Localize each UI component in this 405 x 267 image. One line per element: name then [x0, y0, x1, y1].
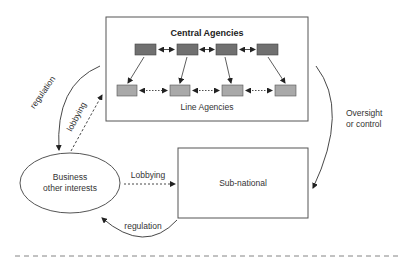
regulation-label-top: regulation — [28, 74, 58, 111]
line-agencies-label: Line Agencies — [181, 102, 234, 112]
central-agency-node — [257, 44, 278, 55]
line-agency-node — [170, 85, 190, 96]
lobbying-label-top: lobbying — [65, 100, 89, 133]
business-label-line2: other interests — [43, 183, 97, 193]
central-agency-node — [135, 44, 156, 55]
line-agency-node — [275, 85, 296, 96]
subnational-label: Sub-national — [219, 178, 267, 188]
central-agency-node — [216, 44, 237, 55]
oversight-arrow — [313, 66, 332, 188]
governance-diagram: Central Agencies Line Agencies Business … — [0, 0, 405, 267]
oversight-label-line2: or control — [346, 119, 382, 129]
business-label-line1: Business — [53, 172, 88, 182]
lobbying-label-mid: Lobbying — [131, 170, 166, 180]
line-agency-node — [117, 85, 137, 96]
regulation-label-bottom: regulation — [124, 221, 162, 231]
line-agency-node — [222, 85, 243, 96]
central-agencies-title: Central Agencies — [170, 28, 243, 38]
oversight-label-line1: Oversight — [346, 108, 383, 118]
central-agency-node — [177, 44, 198, 55]
